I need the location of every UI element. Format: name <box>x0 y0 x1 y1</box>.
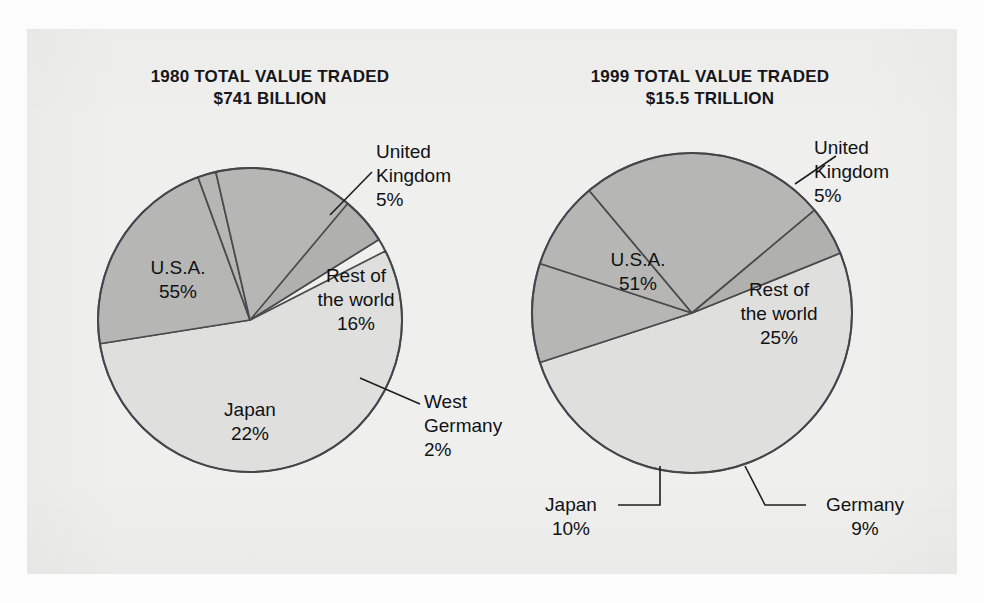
chart-title-1980: 1980 TOTAL VALUE TRADED $741 BILLION <box>108 66 432 110</box>
chart-title-1999-line1: 1999 TOTAL VALUE TRADED <box>548 66 872 88</box>
slice-label-c1-usa: U.S.A. 55% <box>118 256 238 304</box>
slice-label-c1-row-line2: the world <box>296 288 416 312</box>
slice-label-c1-japan-name: Japan <box>224 399 276 420</box>
slice-label-c2-uk-line1: United <box>814 137 869 158</box>
slice-label-c1-usa-pct: 55% <box>118 280 238 304</box>
slice-label-c2-germany-name: Germany <box>826 494 904 515</box>
slice-label-c1-rest-of-world: Rest of the world 16% <box>296 264 416 336</box>
leader-line-c2-japan <box>618 466 660 505</box>
slice-label-c2-germany: Germany 9% <box>810 493 920 541</box>
chart-title-1999: 1999 TOTAL VALUE TRADED $15.5 TRILLION <box>548 66 872 110</box>
slice-label-c1-germany-line2: Germany <box>424 414 544 438</box>
slice-label-c2-row-line1: Rest of <box>749 279 809 300</box>
slice-label-c2-united-kingdom: United Kingdom 5% <box>814 136 954 208</box>
slice-label-c2-usa-pct: 51% <box>578 272 698 296</box>
slice-label-c1-germany-pct: 2% <box>424 438 544 462</box>
slice-label-c2-japan-name: Japan <box>545 494 597 515</box>
slice-label-c1-germany-line1: West <box>424 391 467 412</box>
slice-label-c1-west-germany: West Germany 2% <box>424 390 544 462</box>
slice-label-c2-row-pct: 25% <box>718 326 840 350</box>
slice-label-c1-uk-line1: United <box>376 141 431 162</box>
chart-title-1980-line2: $741 BILLION <box>108 88 432 110</box>
slice-label-c1-row-line1: Rest of <box>326 265 386 286</box>
chart-title-1999-line2: $15.5 TRILLION <box>548 88 872 110</box>
slice-label-c2-uk-pct: 5% <box>814 184 954 208</box>
slice-label-c1-japan-pct: 22% <box>195 422 305 446</box>
slice-label-c2-usa: U.S.A. 51% <box>578 248 698 296</box>
figure-canvas: 1980 TOTAL VALUE TRADED $741 BILLION 199… <box>0 0 984 603</box>
slice-label-c2-japan: Japan 10% <box>528 493 614 541</box>
slice-label-c1-japan: Japan 22% <box>195 398 305 446</box>
slice-label-c2-germany-pct: 9% <box>810 517 920 541</box>
slice-label-c1-united-kingdom: United Kingdom 5% <box>376 140 506 212</box>
chart-title-1980-line1: 1980 TOTAL VALUE TRADED <box>108 66 432 88</box>
slice-label-c2-rest-of-world: Rest of the world 25% <box>718 278 840 350</box>
slice-label-c2-usa-name: U.S.A. <box>611 249 666 270</box>
slice-label-c2-japan-pct: 10% <box>528 517 614 541</box>
slice-label-c1-uk-line2: Kingdom <box>376 164 506 188</box>
leader-line-c2-germany <box>745 466 806 505</box>
slice-label-c2-uk-line2: Kingdom <box>814 160 954 184</box>
slice-label-c1-usa-name: U.S.A. <box>151 257 206 278</box>
slice-label-c1-uk-pct: 5% <box>376 188 506 212</box>
slice-label-c2-row-line2: the world <box>718 302 840 326</box>
slice-label-c1-row-pct: 16% <box>296 312 416 336</box>
